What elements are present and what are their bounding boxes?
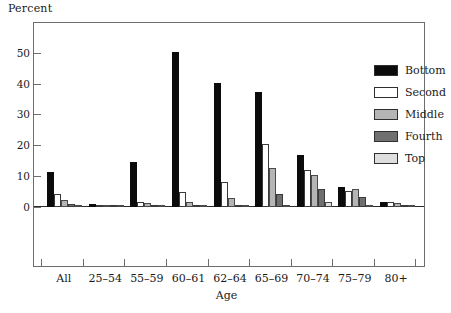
y-tick-mark: [34, 207, 41, 208]
legend-swatch-fourth: [374, 131, 398, 142]
x-category-label: 55–59: [130, 272, 164, 285]
x-category-label: All: [56, 272, 71, 285]
bar: [172, 52, 179, 207]
x-axis-title: Age: [0, 289, 441, 302]
bar-group: [214, 83, 249, 207]
y-tick-label: 20: [17, 139, 30, 151]
x-tick-mark: [124, 259, 125, 266]
bar: [304, 170, 311, 207]
bar: [269, 168, 276, 207]
legend-item: Middle: [374, 103, 451, 125]
y-tick-label: 40: [17, 78, 30, 90]
bar: [255, 92, 262, 207]
bar: [47, 172, 54, 207]
legend-swatch-bottom: [374, 65, 398, 76]
y-axis-title: Percent: [8, 2, 52, 15]
bar-group: [130, 162, 165, 207]
bar: [262, 144, 269, 207]
bar: [54, 194, 61, 207]
bar: [387, 202, 394, 207]
y-tick-mark: [34, 176, 41, 177]
y-tick-label: 30: [17, 108, 30, 120]
bar: [228, 198, 235, 207]
bar: [311, 175, 318, 207]
bar: [318, 189, 325, 207]
legend-item: Top: [374, 147, 451, 169]
bar: [394, 203, 401, 207]
legend-label-middle: Middle: [405, 108, 444, 121]
bar: [366, 205, 373, 207]
bar-group: [47, 172, 82, 207]
bar: [117, 205, 124, 207]
bar: [325, 202, 332, 207]
bar: [345, 191, 352, 207]
bar-group: [255, 92, 290, 207]
chart-legend: Bottom Second Middle Fourth Top: [374, 59, 451, 169]
bar: [61, 200, 68, 207]
bar: [276, 194, 283, 207]
x-tick-mark: [332, 259, 333, 266]
x-category-label: 80+: [385, 272, 408, 285]
legend-swatch-second: [374, 87, 398, 98]
legend-label-fourth: Fourth: [405, 130, 443, 143]
x-tick-mark: [208, 259, 209, 266]
x-category-label: 25–54: [89, 272, 123, 285]
legend-label-bottom: Bottom: [405, 64, 446, 77]
y-tick-mark: [34, 53, 41, 54]
plot-area: 01020304050 Bottom Second Middle Fourth: [33, 22, 425, 267]
y-tick-mark: [34, 114, 41, 115]
bar: [352, 189, 359, 207]
bar: [359, 197, 366, 207]
legend-label-second: Second: [405, 86, 446, 99]
bar: [283, 205, 290, 207]
y-tick-label: 10: [17, 170, 30, 182]
legend-item: Second: [374, 81, 451, 103]
bar: [110, 205, 117, 207]
x-tick-mark: [291, 259, 292, 266]
bar: [408, 205, 415, 207]
bar: [96, 205, 103, 207]
x-tick-mark: [166, 259, 167, 266]
bar: [401, 205, 408, 207]
bar: [235, 205, 242, 207]
bar-group: [380, 202, 415, 207]
y-tick-label: 50: [17, 47, 30, 59]
bar: [103, 205, 110, 207]
x-axis-title-text: Age: [216, 289, 238, 302]
bar: [144, 203, 151, 207]
legend-item: Fourth: [374, 125, 451, 147]
bar: [68, 204, 75, 207]
bar: [137, 202, 144, 207]
bar: [151, 205, 158, 207]
bar-group: [172, 52, 207, 207]
x-category-label: 70–74: [296, 272, 330, 285]
bar: [214, 83, 221, 207]
y-tick-mark: [34, 145, 41, 146]
legend-swatch-middle: [374, 109, 398, 120]
x-category-label: 75–79: [338, 272, 372, 285]
legend-item: Bottom: [374, 59, 451, 81]
bar-group: [297, 155, 332, 207]
bar: [89, 204, 96, 207]
x-category-label: 60–61: [172, 272, 206, 285]
x-tick-mark: [41, 259, 42, 266]
bar-group: [89, 204, 124, 207]
bar: [130, 162, 137, 207]
bar: [186, 202, 193, 207]
x-tick-mark: [374, 259, 375, 266]
y-tick-label: 0: [23, 201, 30, 213]
legend-swatch-top: [374, 153, 398, 164]
bar-group: [338, 187, 373, 207]
bar: [193, 205, 200, 207]
legend-label-top: Top: [405, 152, 425, 165]
bar: [75, 205, 82, 207]
x-tick-mark: [83, 259, 84, 266]
x-category-label: 62–64: [213, 272, 247, 285]
bar: [380, 202, 387, 207]
x-category-label: 65–69: [255, 272, 289, 285]
bar: [179, 192, 186, 207]
bar: [338, 187, 345, 207]
bar: [158, 205, 165, 207]
x-tick-mark: [415, 259, 416, 266]
